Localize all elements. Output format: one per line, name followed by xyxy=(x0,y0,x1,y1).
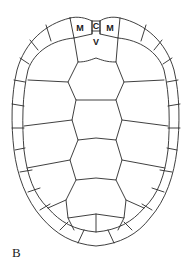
label-marginal-left: M xyxy=(76,23,84,33)
panel-label: B xyxy=(12,245,21,260)
label-marginal-right: M xyxy=(106,23,114,33)
label-cervical: C xyxy=(93,21,100,31)
pleural-divisions-left xyxy=(24,80,72,208)
marginal-inner-boundary xyxy=(23,38,169,232)
label-vertebral: V xyxy=(93,37,99,47)
vertebral-3 xyxy=(72,100,122,140)
carapace-diagram: M C M V B xyxy=(0,0,191,270)
nuchal-join xyxy=(92,31,100,34)
carapace-outline xyxy=(12,17,179,246)
vertebral-2 xyxy=(68,62,124,100)
pleural-divisions-right xyxy=(122,80,168,208)
vertebral-5 xyxy=(66,180,126,218)
vertebral-4 xyxy=(70,140,122,180)
